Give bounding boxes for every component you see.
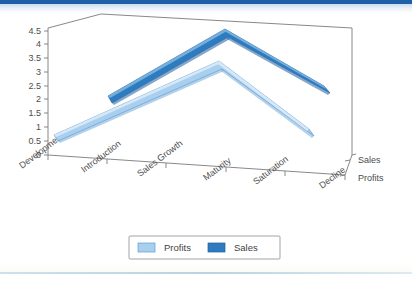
bottom-fade xyxy=(0,262,412,272)
series-ribbon-profits xyxy=(54,61,314,143)
category-label: Introduction xyxy=(79,138,123,174)
profits-ribbon-body xyxy=(54,61,314,141)
depth-axis-labels: Sales Profits xyxy=(358,155,384,183)
y-tick-label: 4 xyxy=(36,39,41,49)
y-tick-label: 3 xyxy=(36,67,41,77)
category-label: Maturity xyxy=(201,155,233,183)
depth-label-sales: Sales xyxy=(358,155,381,165)
legend-swatch-sales xyxy=(208,243,225,252)
category-label: Sales Growth xyxy=(135,138,184,179)
depth-tick-top xyxy=(352,154,356,155)
legend-item-profits[interactable]: Profits xyxy=(138,242,191,253)
category-label: Saturation xyxy=(251,154,290,187)
depth-label-profits: Profits xyxy=(358,173,384,183)
value-axis-ticks xyxy=(44,31,48,155)
profits-ribbon-highlight-left xyxy=(54,61,221,137)
legend-swatch-profits xyxy=(138,243,155,252)
chart-legend[interactable]: Profits Sales xyxy=(129,236,280,259)
y-tick-label: 2 xyxy=(36,94,41,104)
category-label: Decline xyxy=(317,165,347,191)
three-d-line-chart: 4.5 4 3.5 3 2.5 2 1.5 1 0.5 0 Developmen… xyxy=(0,0,412,284)
y-tick-label: 1 xyxy=(36,122,41,132)
legend-label-sales: Sales xyxy=(234,242,258,253)
chart-page: 4.5 4 3.5 3 2.5 2 1.5 1 0.5 0 Developmen… xyxy=(0,0,412,284)
y-tick-label: 4.5 xyxy=(28,26,41,36)
y-tick-label: 3.5 xyxy=(28,53,41,63)
legend-label-profits: Profits xyxy=(164,242,191,253)
depth-tick-sales xyxy=(345,160,350,161)
y-tick-label: 2.5 xyxy=(28,81,41,91)
value-axis-tick-labels: 4.5 4 3.5 3 2.5 2 1.5 1 0.5 0 xyxy=(28,26,41,160)
y-tick-label: 0.5 xyxy=(28,136,41,146)
chart-frame xyxy=(48,14,356,176)
bottom-rule xyxy=(0,272,412,274)
y-tick-label: 1.5 xyxy=(28,108,41,118)
back-wall-top-edge xyxy=(48,14,352,28)
